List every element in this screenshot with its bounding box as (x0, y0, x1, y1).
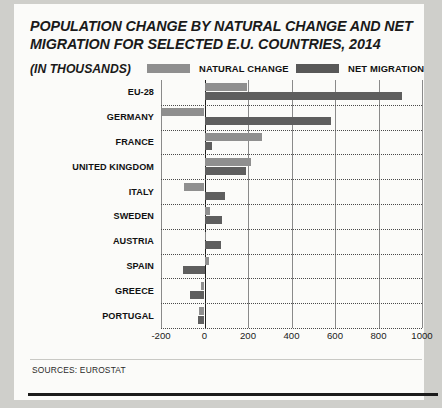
y-axis-label: SPAIN (126, 261, 154, 271)
legend-swatch-net-migration-icon (296, 64, 339, 73)
y-axis-label: FRANCE (116, 137, 155, 147)
gridline-horizontal (161, 179, 422, 180)
x-axis-tick-label: 400 (283, 330, 299, 341)
x-axis-tick-label: 0 (202, 330, 207, 341)
gridline-horizontal (161, 229, 422, 230)
bar-net-migration (205, 92, 403, 100)
gridline-vertical (422, 80, 423, 328)
bar-natural-change (205, 257, 210, 265)
bar-natural-change (205, 232, 207, 240)
x-axis-tick-label: -200 (151, 330, 170, 341)
bar-natural-change (205, 83, 247, 91)
bar-net-migration (205, 117, 331, 125)
bar-natural-change (162, 108, 204, 116)
y-axis-labels: EU-28GERMANYFRANCEUNITED KINGDOMITALYSWE… (30, 80, 161, 328)
bar-net-migration (205, 241, 221, 249)
chart-card: POPULATION CHANGE BY NATURAL CHANGE AND … (14, 4, 424, 400)
y-axis-label: AUSTRIA (113, 236, 154, 246)
gridline-horizontal (161, 105, 422, 106)
gridline-horizontal (161, 303, 422, 304)
bar-natural-change (184, 183, 205, 191)
chart-title: POPULATION CHANGE BY NATURAL CHANGE AND … (30, 18, 422, 53)
x-axis-ticks: -20002004006008001000 (161, 330, 437, 344)
y-axis-label: ITALY (129, 187, 154, 197)
gridline-horizontal (161, 130, 422, 131)
bars-panel (161, 80, 422, 328)
bottom-rule (28, 393, 438, 396)
bar-net-migration (205, 167, 246, 175)
legend-label-net-migration: NET MIGRATION (348, 63, 424, 74)
bar-natural-change (205, 133, 263, 141)
bar-net-migration (198, 316, 205, 324)
x-axis-tick-label: 600 (327, 330, 343, 341)
legend-swatch-natural-change-icon (147, 64, 190, 73)
bar-net-migration (205, 192, 226, 200)
gridline-horizontal (161, 278, 422, 279)
bar-natural-change (205, 207, 211, 215)
bar-net-migration (205, 142, 212, 150)
y-axis-label: GERMANY (107, 112, 154, 122)
y-axis-label: PORTUGAL (102, 311, 154, 321)
legend-item-net-migration[interactable]: NET MIGRATION (296, 63, 424, 74)
legend-row: (IN THOUSANDS) NATURAL CHANGE NET MIGRAT… (30, 62, 422, 76)
bar-net-migration (190, 291, 204, 299)
gridline-horizontal (161, 154, 422, 155)
y-axis-label: EU-28 (128, 87, 154, 97)
x-axis-tick-label: 800 (370, 330, 386, 341)
plot-area: EU-28GERMANYFRANCEUNITED KINGDOMITALYSWE… (30, 80, 422, 328)
bar-natural-change (201, 282, 204, 290)
bar-natural-change (199, 307, 204, 315)
x-axis-tick-label: 1000 (411, 330, 432, 341)
bar-net-migration (183, 266, 205, 274)
gridline-horizontal (161, 204, 422, 205)
x-axis-tick-label: 200 (240, 330, 256, 341)
y-axis-label: UNITED KINGDOM (72, 162, 154, 172)
footer-divider (30, 359, 422, 360)
gridline-horizontal (161, 328, 422, 329)
gridline-horizontal (161, 254, 422, 255)
legend-label-natural-change: NATURAL CHANGE (199, 63, 289, 74)
legend-item-natural-change[interactable]: NATURAL CHANGE (147, 63, 289, 74)
bar-natural-change (205, 158, 252, 166)
bar-net-migration (205, 216, 222, 224)
y-axis-label: SWEDEN (113, 211, 154, 221)
y-axis-label: GREECE (115, 286, 154, 296)
units-label: (IN THOUSANDS) (30, 62, 131, 76)
sources-label: SOURCES: EUROSTAT (32, 365, 126, 375)
